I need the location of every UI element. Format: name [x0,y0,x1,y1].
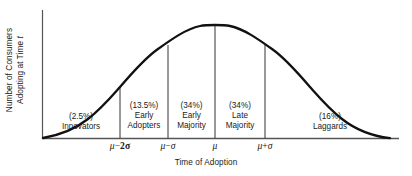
tick-num: σ [171,140,176,151]
x-tick-label-mu-minus-2sigma: μ−2σ [94,140,146,151]
segment-name-line-1: Late [216,111,264,121]
x-tick-label-mu: μ [195,140,235,151]
segment-label-early-majority: (34%) Early Majority [169,101,214,132]
y-axis-title-line-2-text: Adopting at Time [16,38,25,103]
tick-num: 2σ [120,140,130,151]
segment-name-line-1: Early [169,111,214,121]
segment-name: Laggards [290,122,370,132]
segment-name-line-1: Early [121,111,167,121]
segment-label-early-adopters: (13.5%) Early Adopters [121,101,167,132]
segment-name-line-2: Majority [169,121,214,131]
segment-percent: (13.5%) [121,101,167,111]
y-axis-title-variable-t: t [16,36,25,38]
tick-num: σ [268,140,273,151]
segment-percent: (2.5%) [41,112,121,122]
x-axis-title: Time of Adoption [0,158,412,167]
segment-label-laggards: (16%) Laggards [290,112,370,132]
y-axis-title: Number of Consumers Adopting at Time t [0,0,30,140]
segment-label-innovators: (2.5%) Innovators [41,112,121,132]
x-tick-label-mu-minus-sigma: μ−σ [144,140,192,151]
y-axis-title-line-1: Number of Consumers [4,28,15,112]
segment-percent: (34%) [216,101,264,111]
x-tick-label-mu-plus-sigma: μ+σ [241,140,289,151]
segment-name-line-2: Adopters [121,121,167,131]
segment-label-late-majority: (34%) Late Majority [216,101,264,132]
segment-name-line-2: Majority [216,121,264,131]
y-axis-title-line-2: Adopting at Time t [15,28,26,112]
segment-percent: (34%) [169,101,214,111]
segment-percent: (16%) [290,112,370,122]
segment-name: Innovators [41,122,121,132]
adoption-curve-figure: Number of Consumers Adopting at Time t (… [0,0,412,176]
tick-var: μ [213,140,218,151]
